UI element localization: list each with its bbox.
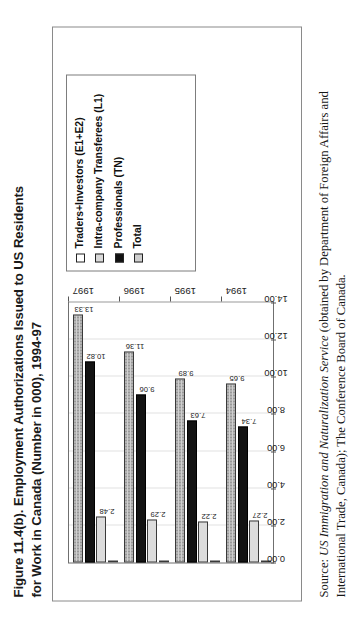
axis-tick-label: 0.00 (267, 553, 285, 563)
bar-value-label: 13.33 (74, 304, 93, 313)
bar (85, 361, 95, 562)
bar-value-label: 2.27 (253, 510, 268, 519)
legend-item: Total (132, 83, 144, 262)
rotated-page-canvas: Figure 11.4(b). Employment Authorization… (0, 0, 364, 623)
axis-tick-label: 10.00 (264, 367, 287, 377)
category-label: 1994 (225, 286, 246, 297)
bar-group: 13.3310.822.48 (69, 302, 120, 562)
bar-value-label: 7.63 (190, 410, 205, 419)
category-tick-mark (170, 296, 171, 301)
chart-legend: Traders+Investors (E1+E2)Intra-company T… (66, 74, 196, 271)
bar-group: 11.369.062.29 (120, 302, 171, 562)
source-note: Source: US Immigration and Naturalizatio… (316, 37, 350, 597)
bar (226, 383, 236, 562)
bar (210, 560, 220, 562)
legend-item-label: Intra-company Transferees (L1) (93, 93, 105, 248)
axis-tick-label: 6.00 (267, 442, 285, 452)
legend-item: Professionals (TN) (113, 83, 125, 262)
category-label: 1995 (174, 286, 195, 297)
category-label: 1996 (123, 286, 144, 297)
bar-value-label: 10.82 (86, 351, 105, 360)
axis-tick-label: 4.00 (267, 479, 285, 489)
bar-value-label: 9.89 (179, 368, 194, 377)
legend-item-label: Professionals (TN) (113, 156, 125, 248)
bar-value-label: 11.36 (126, 341, 144, 350)
source-prefix: Source: (317, 555, 331, 597)
category-tick-mark (68, 296, 69, 301)
legend-item-label: Total (132, 224, 144, 248)
bar (73, 314, 83, 562)
bar-value-label: 7.34 (241, 416, 256, 425)
bar-value-label: 2.48 (100, 506, 115, 515)
legend-item: Traders+Investors (E1+E2) (74, 83, 86, 262)
axis-tick-label: 8.00 (267, 404, 285, 414)
page-title: Figure 11.4(b). Employment Authorization… (10, 177, 46, 597)
source-publication: US Immigration and Naturalization Servic… (317, 335, 331, 555)
bar (238, 426, 248, 562)
bar (159, 560, 169, 562)
value-axis-ticks: 0.002.004.006.008.0010.0012.0014.00 (276, 301, 316, 563)
bar (124, 351, 134, 562)
bar (147, 519, 157, 562)
category-axis-labels: 1994199519961997 (68, 261, 274, 301)
category-label: 1997 (72, 286, 93, 297)
bar (187, 420, 197, 562)
legend-item: Intra-company Transferees (L1) (93, 83, 105, 262)
category-tick-mark (221, 296, 222, 301)
category-tick-mark (119, 296, 120, 301)
bar-value-label: 2.29 (151, 509, 166, 518)
bar (175, 378, 185, 562)
plot-area: 9.657.342.279.897.632.2211.369.062.2913.… (68, 301, 274, 563)
figure-page: Figure 11.4(b). Employment Authorization… (0, 0, 364, 623)
bar (198, 521, 208, 562)
bar (96, 516, 106, 562)
bar-value-label: 9.65 (230, 373, 245, 382)
bar-value-label: 2.22 (202, 511, 217, 520)
bar (249, 520, 259, 562)
axis-tick-label: 2.00 (267, 516, 285, 526)
bar-group: 9.897.632.22 (171, 302, 222, 562)
bar-value-label: 9.06 (139, 384, 154, 393)
legend-item-label: Traders+Investors (E1+E2) (74, 117, 86, 248)
bar-group: 9.657.342.27 (222, 302, 273, 562)
axis-tick-label: 12.00 (264, 330, 287, 340)
bar (108, 560, 118, 562)
bar (136, 394, 146, 562)
